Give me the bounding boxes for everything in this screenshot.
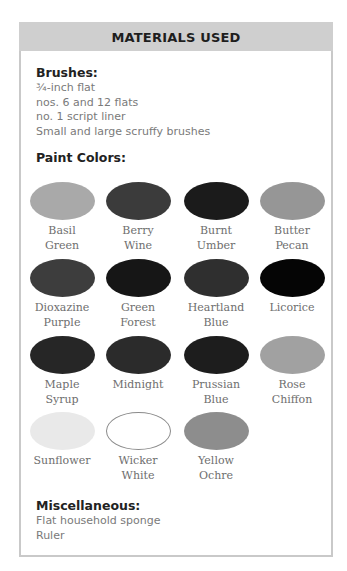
label-line: Basil — [22, 223, 102, 238]
swatch-label: Heartland Blue — [176, 300, 256, 330]
swatch-label: Maple Syrup — [22, 377, 102, 407]
color-oval — [260, 182, 325, 220]
color-oval — [30, 336, 95, 374]
swatch-green-forest: Green Forest — [98, 259, 178, 330]
color-oval — [260, 259, 325, 297]
swatch-label: Midnight — [98, 377, 178, 392]
swatch-label: Yellow Ochre — [176, 453, 256, 483]
color-oval — [30, 259, 95, 297]
swatch-prussian-blue: Prussian Blue — [176, 336, 256, 407]
miscellaneous-list: Flat household sponge Ruler — [36, 514, 161, 543]
swatch-midnight: Midnight — [98, 336, 178, 392]
color-oval — [30, 182, 95, 220]
misc-item: Ruler — [36, 529, 161, 544]
color-oval — [184, 336, 249, 374]
label-line: Forest — [98, 315, 178, 330]
label-line: Midnight — [98, 377, 178, 392]
label-line: Licorice — [252, 300, 332, 315]
label-line: Sunflower — [22, 453, 102, 468]
label-line: Berry — [98, 223, 178, 238]
color-oval — [106, 336, 171, 374]
brush-item: no. 1 script liner — [36, 110, 210, 125]
swatch-label: Basil Green — [22, 223, 102, 253]
swatch-burnt-umber: Burnt Umber — [176, 182, 256, 253]
paint-colors-heading: Paint Colors: — [36, 150, 126, 165]
swatch-maple-syrup: Maple Syrup — [22, 336, 102, 407]
swatch-label: Sunflower — [22, 453, 102, 468]
swatch-label: Burnt Umber — [176, 223, 256, 253]
swatch-label: Rose Chiffon — [252, 377, 332, 407]
label-line: White — [98, 468, 178, 483]
swatch-dioxazine-purple: Dioxazine Purple — [22, 259, 102, 330]
swatch-yellow-ochre: Yellow Ochre — [176, 412, 256, 483]
label-line: Chiffon — [252, 392, 332, 407]
swatch-butter-pecan: Butter Pecan — [252, 182, 332, 253]
label-line: Dioxazine — [22, 300, 102, 315]
swatch-label: Prussian Blue — [176, 377, 256, 407]
label-line: Heartland — [176, 300, 256, 315]
label-line: Wine — [98, 238, 178, 253]
swatch-basil-green: Basil Green — [22, 182, 102, 253]
swatch-berry-wine: Berry Wine — [98, 182, 178, 253]
label-line: Blue — [176, 392, 256, 407]
swatch-sunflower: Sunflower — [22, 412, 102, 468]
swatch-rose-chiffon: Rose Chiffon — [252, 336, 332, 407]
label-line: Prussian — [176, 377, 256, 392]
color-oval — [106, 412, 171, 450]
materials-box: MATERIALS USED Brushes: ¾-inch flat nos.… — [19, 22, 333, 557]
materials-header: MATERIALS USED — [19, 22, 333, 51]
swatch-wicker-white: Wicker White — [98, 412, 178, 483]
swatch-label: Dioxazine Purple — [22, 300, 102, 330]
swatch-label: Wicker White — [98, 453, 178, 483]
swatch-label: Green Forest — [98, 300, 178, 330]
swatch-label: Berry Wine — [98, 223, 178, 253]
color-oval — [184, 412, 249, 450]
label-line: Burnt — [176, 223, 256, 238]
label-line: Ochre — [176, 468, 256, 483]
swatch-label: Butter Pecan — [252, 223, 332, 253]
color-oval — [106, 259, 171, 297]
swatch-heartland-blue: Heartland Blue — [176, 259, 256, 330]
label-line: Wicker — [98, 453, 178, 468]
brushes-heading: Brushes: — [36, 65, 98, 80]
materials-title: MATERIALS USED — [111, 22, 240, 53]
color-oval — [30, 412, 95, 450]
brush-item: Small and large scruffy brushes — [36, 125, 210, 140]
label-line: Green — [22, 238, 102, 253]
label-line: Rose — [252, 377, 332, 392]
label-line: Syrup — [22, 392, 102, 407]
label-line: Green — [98, 300, 178, 315]
label-line: Blue — [176, 315, 256, 330]
swatch-licorice: Licorice — [252, 259, 332, 315]
label-line: Maple — [22, 377, 102, 392]
label-line: Purple — [22, 315, 102, 330]
color-oval — [260, 336, 325, 374]
label-line: Umber — [176, 238, 256, 253]
misc-item: Flat household sponge — [36, 514, 161, 529]
label-line: Pecan — [252, 238, 332, 253]
brush-item: ¾-inch flat — [36, 81, 210, 96]
label-line: Butter — [252, 223, 332, 238]
miscellaneous-heading: Miscellaneous: — [36, 498, 140, 513]
color-oval — [106, 182, 171, 220]
color-oval — [184, 182, 249, 220]
brushes-list: ¾-inch flat nos. 6 and 12 flats no. 1 sc… — [36, 81, 210, 139]
brush-item: nos. 6 and 12 flats — [36, 96, 210, 111]
swatch-label: Licorice — [252, 300, 332, 315]
color-oval — [184, 259, 249, 297]
label-line: Yellow — [176, 453, 256, 468]
